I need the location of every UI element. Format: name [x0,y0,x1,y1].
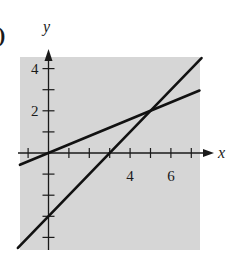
y-axis-label: y [41,18,51,36]
y-tick-label: 4 [31,61,39,77]
y-tick-label: 2 [31,103,39,119]
x-axis-label: x [217,144,225,161]
panel-label: ) [0,22,5,47]
y-axis-arrow-icon [45,49,53,61]
chart: ) 46 24 x y [0,0,239,253]
x-axis-arrow-icon [203,149,214,157]
x-tick-label: 6 [167,168,175,184]
x-tick-label: 4 [126,168,134,184]
